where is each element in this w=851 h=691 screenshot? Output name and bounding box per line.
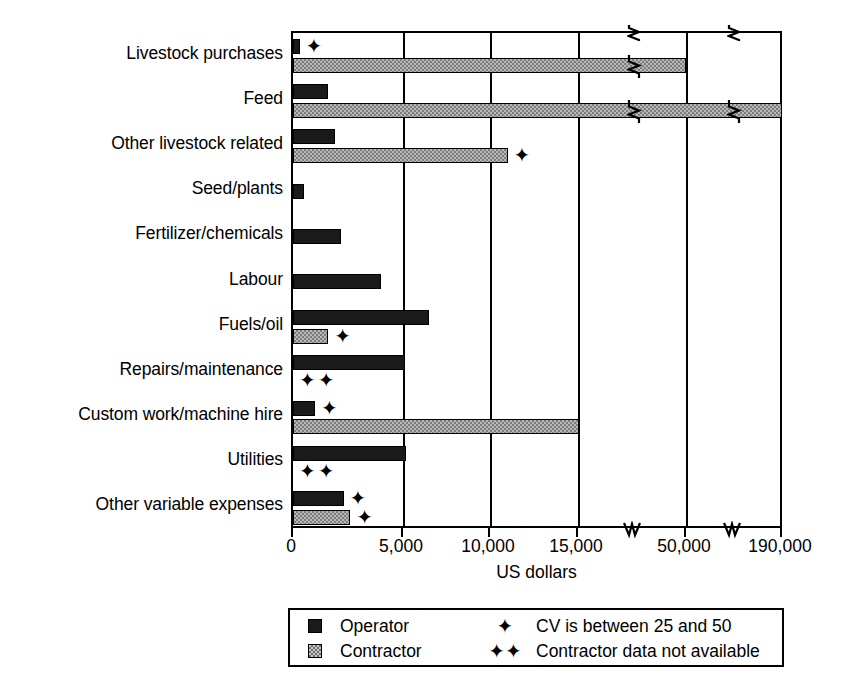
legend-row-operator: Operator ✦ CV is between 25 and 50	[290, 613, 782, 639]
cv-star-icon: ✦	[476, 616, 534, 637]
contractor-swatch-icon	[308, 644, 322, 658]
horizontal-bar-chart: Livestock purchasesFeedOther livestock r…	[0, 0, 851, 691]
x-axis-tick-label: 10,000	[461, 538, 515, 556]
x-axis-break-icon	[723, 521, 741, 543]
x-axis-tick-label: 50,000	[657, 538, 711, 556]
legend-note-unavailable: Contractor data not available	[536, 641, 760, 662]
x-axis-title: US dollars	[291, 562, 782, 583]
legend-row-contractor: Contractor ✦✦ Contractor data not availa…	[290, 638, 782, 664]
x-axis-tick-label: 0	[286, 538, 296, 556]
x-axis-break-icon	[623, 521, 641, 543]
double-star-icon: ✦✦	[476, 641, 534, 662]
x-axis: 05,00010,00015,00050,000190,000	[0, 0, 851, 691]
operator-swatch-icon	[308, 619, 322, 633]
x-axis-tick-label: 5,000	[379, 538, 423, 556]
legend-label-contractor: Contractor	[340, 641, 422, 662]
x-axis-tick-label: 190,000	[748, 538, 811, 556]
x-axis-tick-label: 15,000	[549, 538, 603, 556]
chart-legend: Operator ✦ CV is between 25 and 50 Contr…	[288, 608, 784, 667]
legend-note-cv: CV is between 25 and 50	[536, 616, 732, 637]
legend-label-operator: Operator	[340, 616, 409, 637]
